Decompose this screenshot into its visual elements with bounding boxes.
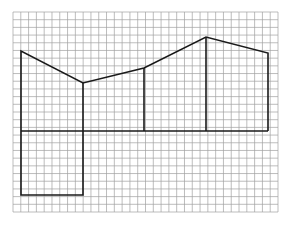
- background: [0, 0, 284, 227]
- grid-diagram: [0, 0, 284, 227]
